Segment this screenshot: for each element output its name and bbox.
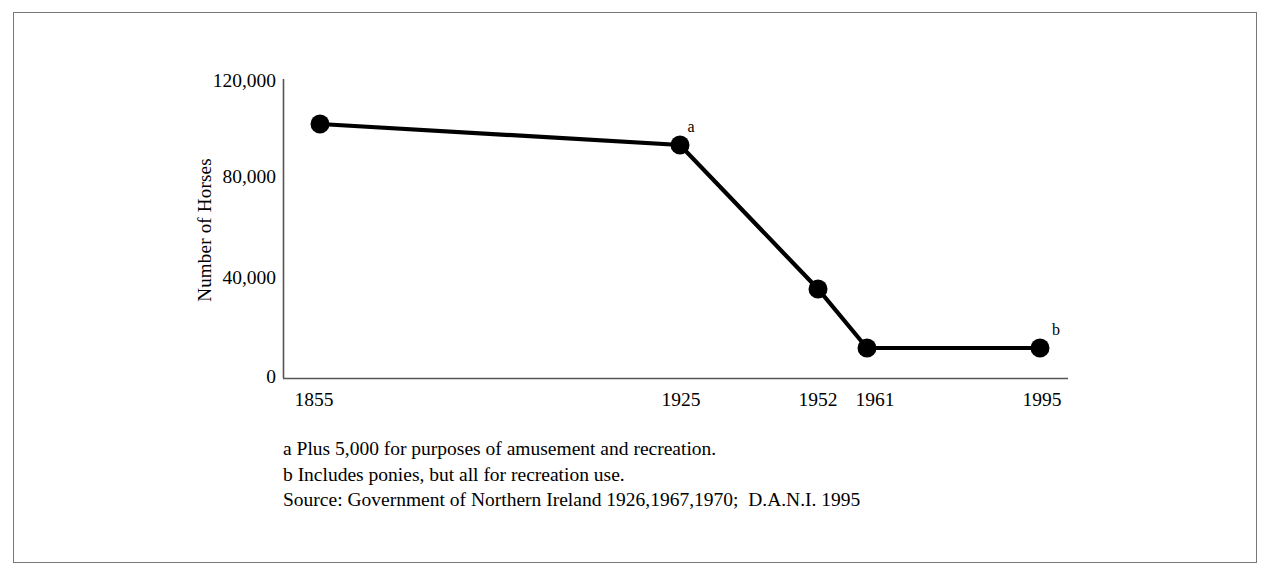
figure-page: Number of Horses 120,000 80,000 40,000 0… <box>0 0 1264 576</box>
data-point-1952 <box>809 280 828 299</box>
annotation-b: b <box>1052 321 1060 339</box>
y-tick-label-80000: 80,000 <box>0 166 276 188</box>
x-tick-label-1995: 1995 <box>1023 389 1062 411</box>
annotation-a: a <box>687 118 694 136</box>
y-tick-label-120000: 120,000 <box>0 70 276 92</box>
data-point-1855 <box>311 115 330 134</box>
y-tick-label-0: 0 <box>0 366 276 388</box>
source-note: Source: Government of Northern Ireland 1… <box>283 487 1143 513</box>
x-tick-label-1952: 1952 <box>799 389 838 411</box>
data-point-1925 <box>671 136 690 155</box>
data-line-number-of-horses <box>320 124 1040 348</box>
data-point-1961 <box>858 339 877 358</box>
footnote-b: b Includes ponies, but all for recreatio… <box>283 462 1143 488</box>
y-tick-label-40000: 40,000 <box>0 267 276 289</box>
x-tick-label-1961: 1961 <box>856 389 895 411</box>
footnote-a: a Plus 5,000 for purposes of amusement a… <box>283 436 1143 462</box>
x-tick-label-1925: 1925 <box>662 389 701 411</box>
x-tick-label-1855: 1855 <box>295 389 334 411</box>
figure-notes: a Plus 5,000 for purposes of amusement a… <box>283 436 1143 513</box>
data-point-1995 <box>1031 339 1050 358</box>
